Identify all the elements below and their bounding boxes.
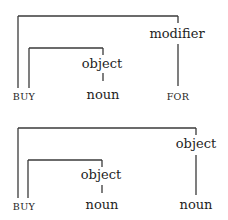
head-word: BUY [13,201,36,212]
inner-dependent-word: noun [86,197,120,212]
head-word: BUY [13,91,36,102]
outer-role-label: object [176,136,217,151]
diagram-1: modifier object BUY noun FOR [13,16,206,102]
inner-dependent-word: noun [87,87,121,102]
diagram-2: object object BUY noun noun [13,128,217,212]
dependency-diagrams: modifier object BUY noun FOR object obje… [0,0,228,220]
outer-dependent-word: noun [180,197,214,212]
inner-role-label: object [82,56,123,71]
outer-dependent-word: FOR [167,91,190,102]
inner-role-label: object [81,167,122,182]
outer-role-label: modifier [149,26,205,41]
